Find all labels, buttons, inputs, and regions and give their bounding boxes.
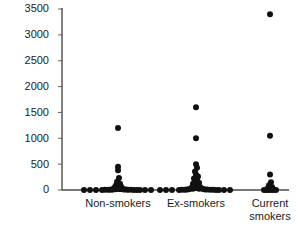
data-point [267, 171, 273, 177]
x-category-label: Ex-smokers [167, 197, 226, 209]
data-point [227, 187, 233, 193]
data-point [176, 187, 182, 193]
data-point [87, 187, 93, 193]
data-points-layer [81, 11, 279, 193]
y-tick-label: 1500 [25, 106, 49, 118]
data-point [115, 167, 121, 173]
y-tick-label: 1000 [25, 132, 49, 144]
y-tick-label: 3500 [25, 2, 49, 14]
y-axis-tick-labels: 0500100015002000250030003500 [25, 2, 49, 195]
y-tick-label: 2500 [25, 54, 49, 66]
scatter-plot-figure: 0500100015002000250030003500 Non-smokers… [0, 0, 296, 227]
data-point [142, 187, 148, 193]
data-point [148, 187, 154, 193]
data-point [93, 187, 99, 193]
data-point [115, 125, 121, 131]
data-point [169, 187, 175, 193]
data-point [157, 187, 163, 193]
x-category-label: Non-smokers [85, 197, 151, 209]
chart-canvas: 0500100015002000250030003500 Non-smokers… [0, 0, 296, 227]
series-ex-smokers [157, 104, 233, 193]
series-current-smokers [261, 11, 279, 193]
y-tick-label: 500 [31, 158, 49, 170]
data-point [273, 187, 279, 193]
data-point [267, 133, 273, 139]
data-point [193, 135, 199, 141]
y-tick-label: 2000 [25, 80, 49, 92]
y-tick-label: 3000 [25, 28, 49, 40]
data-point [193, 104, 199, 110]
data-point [261, 187, 267, 193]
x-axis-category-labels: Non-smokersEx-smokersCurrentsmokers [85, 197, 291, 222]
data-point [99, 187, 105, 193]
axis-lines [62, 8, 289, 190]
x-category-label: Current [252, 197, 289, 209]
data-point [267, 11, 273, 17]
data-point [81, 187, 87, 193]
x-category-label: smokers [249, 210, 291, 222]
data-point [221, 187, 227, 193]
data-point [163, 187, 169, 193]
y-tick-label: 0 [43, 183, 49, 195]
series-non-smokers [81, 125, 154, 193]
